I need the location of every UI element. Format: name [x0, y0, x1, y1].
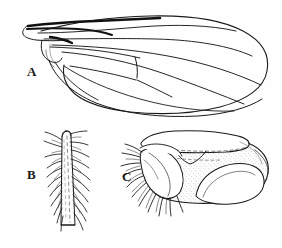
- panel-c-terminalia: [121, 131, 268, 216]
- segment-bristles-left: [44, 132, 63, 231]
- vein-discal-lower: [70, 66, 136, 80]
- panel-b-segment: [44, 131, 90, 231]
- wing-base-dark-spot: [50, 37, 72, 43]
- vein-m1: [62, 52, 244, 104]
- segment-setae-left: [52, 140, 62, 216]
- panel-label-b: B: [27, 168, 36, 181]
- panel-label-a: A: [27, 65, 37, 78]
- wing-alula: [41, 40, 62, 62]
- panel-label-c: C: [122, 170, 132, 183]
- crossvein-r-m: [135, 57, 137, 78]
- figure-drawing: [0, 0, 282, 248]
- vein-cua: [64, 66, 234, 111]
- crossvein-dm-cu: [137, 80, 172, 97]
- vein-r45: [52, 45, 261, 85]
- wing-costal-thickening: [28, 18, 160, 26]
- wing-posterior-margin: [49, 60, 262, 116]
- panel-a-wing: [23, 16, 268, 117]
- figure-plate: A B C: [0, 0, 282, 248]
